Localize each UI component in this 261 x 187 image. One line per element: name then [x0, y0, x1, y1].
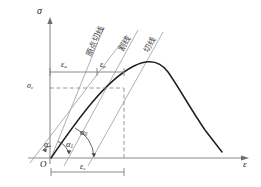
angle-alpha1-subscript: 1: [71, 143, 74, 149]
eps-p-subscript: p: [103, 64, 105, 69]
angle-alpha-symbol: α: [44, 139, 48, 149]
angle-alpha-label: α: [44, 140, 48, 149]
x-axis-label: ε: [243, 160, 247, 169]
eps-p-label: εp: [100, 61, 106, 69]
sigma-c-label: σc: [27, 82, 33, 90]
angle-arrow-alpha0: [91, 153, 96, 157]
angle-alpha1-label: α1: [66, 140, 73, 149]
axis-group: [28, 17, 249, 164]
sigma-c-subscript: c: [31, 85, 33, 90]
y-axis-arrow: [47, 17, 52, 24]
angle-alpha0-subscript: 0: [85, 131, 88, 137]
angle-alpha0-symbol: α: [80, 127, 84, 137]
y-axis-label: σ: [37, 6, 42, 16]
eps-a-label: εa: [61, 61, 67, 69]
stress-strain-figure: σ ε O σc εa εp εc α α1 α0 原点切线 割线 切线: [0, 0, 261, 187]
eps-c-label: εc: [80, 163, 85, 171]
strain-measure-bottom-group: [51, 168, 124, 176]
eps-c-subscript: c: [83, 166, 85, 171]
angle-alpha1-symbol: α: [66, 139, 70, 149]
origin-label: O: [40, 160, 47, 169]
eps-a-subscript: a: [64, 64, 66, 69]
angle-alpha0-label: α0: [80, 128, 87, 137]
